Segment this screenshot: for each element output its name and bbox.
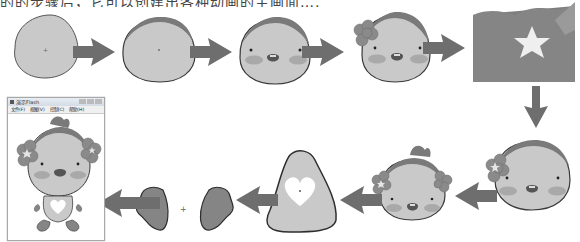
step-9-foot-left (200, 187, 233, 230)
step-7-head-crest (372, 146, 452, 220)
stage (8, 114, 104, 240)
final-character (8, 114, 104, 240)
svg-text:+: + (43, 46, 48, 53)
window-title: 演示Flash (16, 99, 39, 105)
arrow-5-down-icon (524, 86, 548, 128)
app-icon (10, 100, 14, 104)
step-2-head-hair (123, 17, 195, 82)
step-6-head-flower (486, 140, 570, 210)
arrow-6-icon (455, 182, 497, 210)
close-button[interactable] (95, 99, 102, 104)
step-4-flower (354, 12, 430, 82)
maximize-button[interactable] (87, 99, 94, 104)
flash-player-window: 演示Flash 文件(F) 视图(V) 控制(C) 帮助(H) (7, 97, 105, 241)
step-5-star-symbol (473, 2, 575, 82)
step-3-face (240, 17, 310, 84)
step-1-base-head: + (15, 15, 78, 78)
menu-view[interactable]: 视图(V) (30, 106, 45, 113)
arrow-1-icon (73, 38, 115, 66)
plus-sign: + (180, 205, 187, 214)
menu-control[interactable]: 控制(C) (50, 106, 65, 113)
menu-help[interactable]: 帮助(H) (69, 106, 84, 113)
arrow-2-icon (190, 38, 232, 66)
window-titlebar[interactable]: 演示Flash (8, 98, 104, 106)
step-8-body-heart (267, 151, 336, 232)
minimize-button[interactable] (79, 99, 86, 104)
menu-bar: 文件(F) 视图(V) 控制(C) 帮助(H) (8, 106, 104, 114)
menu-file[interactable]: 文件(F) (11, 106, 25, 113)
